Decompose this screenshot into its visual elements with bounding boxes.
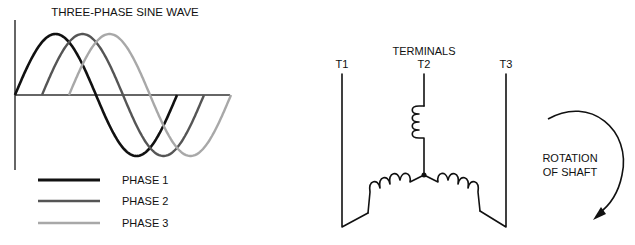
three-phase-diagram: THREE-PHASE SINE WAVE PHASE 1 PHASE 2 PH… <box>0 0 635 245</box>
rotation-label-line1: ROTATION <box>542 152 597 164</box>
terminal-label-t1: T1 <box>336 58 349 70</box>
coil-t3 <box>424 173 480 211</box>
legend-label-phase-2: PHASE 2 <box>122 195 168 207</box>
terminal-label-t3: T3 <box>500 58 513 70</box>
legend: PHASE 1 PHASE 2 PHASE 3 <box>38 174 168 229</box>
legend-label-phase-1: PHASE 1 <box>122 174 168 186</box>
neutral-node <box>422 173 427 178</box>
rotation-label-line2: OF SHAFT <box>543 166 598 178</box>
coil-t1 <box>368 173 424 213</box>
terminal-label-t2: T2 <box>418 58 431 70</box>
lead-t3 <box>480 74 506 227</box>
lead-t1 <box>342 74 368 227</box>
legend-label-phase-3: PHASE 3 <box>122 217 168 229</box>
sine-wave-title: THREE-PHASE SINE WAVE <box>51 6 199 18</box>
terminals-heading: TERMINALS <box>393 45 456 57</box>
coil-t2 <box>412 106 424 175</box>
